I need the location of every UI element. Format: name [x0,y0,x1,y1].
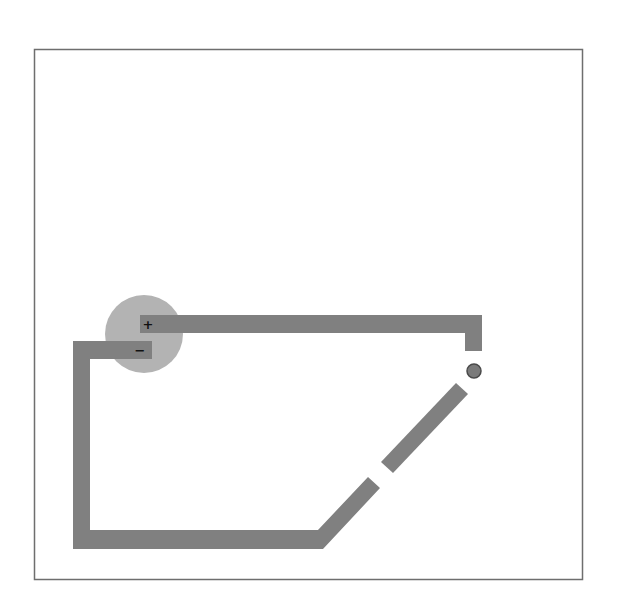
bulb[interactable] [467,364,481,378]
wire-top [140,315,482,333]
wire-bottom [73,530,318,549]
battery [105,295,183,373]
wire-left [73,341,90,549]
wire-right-drop [465,315,482,351]
negative-terminal-label: − [135,343,146,358]
circuit-diagram: + − [0,0,617,616]
positive-terminal-label: + [143,317,154,332]
